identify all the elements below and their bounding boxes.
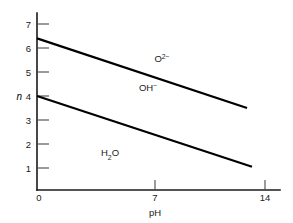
y-axis-title: n	[16, 91, 22, 102]
region-label-oxide-superscript: 2−	[162, 53, 170, 60]
upper-boundary-line	[37, 38, 247, 108]
region-label-group: O2− OH− H2O	[101, 53, 170, 161]
region-label-hydroxide-superscript: −	[153, 82, 157, 89]
region-label-oxide-base: O	[154, 53, 161, 64]
x-tick-label-group: 0 7 14	[36, 192, 270, 203]
region-label-water: H2O	[101, 147, 119, 161]
lower-boundary-line	[37, 96, 252, 167]
x-tick-label-14: 14	[260, 192, 271, 203]
region-label-hydroxide-base: OH	[139, 82, 153, 93]
y-tick-label-7: 7	[26, 19, 31, 30]
data-series-group	[37, 38, 252, 166]
x-axis-title: pH	[149, 207, 161, 218]
line-chart-canvas: 7 6 5 4 3 2 1 0 7 14 n pH	[0, 0, 293, 223]
region-label-oxide: O2−	[154, 53, 169, 65]
region-label-hydroxide: OH−	[139, 82, 157, 94]
y-tick-label-4: 4	[26, 91, 31, 102]
y-tick-label-3: 3	[26, 115, 31, 126]
y-tick-label-group: 7 6 5 4 3 2 1	[26, 19, 31, 174]
y-tick-label-1: 1	[26, 163, 31, 174]
chart-figure: 7 6 5 4 3 2 1 0 7 14 n pH	[0, 0, 293, 223]
region-label-water-tail: O	[112, 147, 119, 158]
y-tick-label-6: 6	[26, 43, 31, 54]
y-tick-label-5: 5	[26, 67, 31, 78]
x-tick-group	[155, 180, 265, 190]
x-tick-label-7: 7	[152, 192, 157, 203]
x-tick-label-0: 0	[36, 192, 41, 203]
y-tick-label-2: 2	[26, 139, 31, 150]
